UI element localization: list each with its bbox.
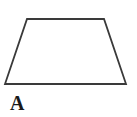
figure-canvas: A — [0, 0, 137, 117]
trapezoid-outline — [5, 19, 126, 84]
shape-label-a: A — [10, 93, 24, 113]
